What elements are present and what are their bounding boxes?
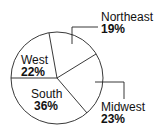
- northeast-value: 19%: [101, 22, 125, 36]
- west-value: 22%: [21, 65, 45, 79]
- pie-chart: Northeast 19% Midwest 23% West 22% South…: [0, 0, 164, 134]
- south-value: 36%: [34, 99, 58, 113]
- midwest-value: 23%: [101, 112, 125, 126]
